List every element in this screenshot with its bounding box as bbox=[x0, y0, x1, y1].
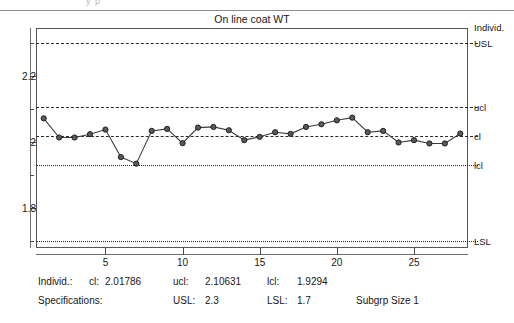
stats-subgroup-size: Subgrp Size 1 bbox=[356, 295, 419, 306]
x-tick-label-20: 20 bbox=[331, 257, 342, 268]
statistics-summary: Individ.: cl: 2.01786 ucl: 2.10631 lcl: … bbox=[38, 276, 478, 314]
x-tick-5 bbox=[105, 248, 106, 255]
y-tick-label-2.2: 2.2 bbox=[10, 70, 36, 81]
x-tick-label-10: 10 bbox=[177, 257, 188, 268]
header-rule bbox=[0, 10, 514, 11]
page-title: On line coat WT bbox=[36, 13, 468, 25]
reference-label-ucl: ucl bbox=[474, 101, 486, 112]
x-tick-10 bbox=[183, 248, 184, 255]
stats-lsl-label: LSL: bbox=[267, 295, 288, 306]
stats-lcl-label: lcl: bbox=[267, 276, 279, 287]
stats-cl-label: cl: bbox=[89, 276, 99, 287]
stats-row-specifications: Specifications: USL: 2.3 LSL: 1.7 Subgrp… bbox=[38, 295, 478, 314]
reference-label-lcl: lcl bbox=[474, 160, 483, 171]
stats-lcl-value: 1.9294 bbox=[297, 276, 328, 287]
reference-label-lsl: LSL bbox=[474, 236, 491, 247]
stats-lsl-value: 1.7 bbox=[297, 295, 311, 306]
y-minor-tick bbox=[30, 109, 34, 110]
x-tick-label-25: 25 bbox=[408, 257, 419, 268]
x-tick-label-5: 5 bbox=[103, 257, 109, 268]
y-minor-tick bbox=[30, 241, 34, 242]
x-tick-20 bbox=[337, 248, 338, 255]
right-axis-label: Individ. bbox=[474, 22, 504, 33]
x-axis-line bbox=[36, 254, 468, 255]
y-minor-tick bbox=[30, 175, 34, 176]
reference-label-usl: USL bbox=[474, 37, 492, 48]
y-minor-tick bbox=[30, 43, 34, 44]
stats-usl-label: USL: bbox=[173, 295, 195, 306]
plot-area bbox=[36, 28, 468, 248]
reference-line-lcl bbox=[36, 165, 478, 166]
stats-ucl-label: ucl: bbox=[173, 276, 189, 287]
stats-individ-label: Individ.: bbox=[38, 276, 72, 287]
x-tick-15 bbox=[260, 248, 261, 255]
reference-line-usl bbox=[36, 43, 478, 44]
x-tick-label-15: 15 bbox=[254, 257, 265, 268]
scan-artifact-strip: y p bbox=[0, 0, 514, 10]
reference-line-lsl bbox=[36, 241, 478, 242]
stats-row-individ: Individ.: cl: 2.01786 ucl: 2.10631 lcl: … bbox=[38, 276, 478, 295]
scan-artifact-text: y p bbox=[86, 0, 101, 6]
y-axis: 1.822.2 bbox=[0, 0, 36, 323]
stats-ucl-value: 2.10631 bbox=[205, 276, 241, 287]
reference-label-cl: cl bbox=[474, 131, 481, 142]
stats-cl-value: 2.01786 bbox=[105, 276, 141, 287]
y-tick-label-1.8: 1.8 bbox=[10, 203, 36, 214]
x-tick-25 bbox=[414, 248, 415, 255]
y-tick-label-2: 2 bbox=[10, 137, 36, 148]
stats-usl-value: 2.3 bbox=[205, 295, 219, 306]
reference-line-cl bbox=[36, 136, 478, 137]
stats-specs-label: Specifications: bbox=[38, 295, 102, 306]
reference-line-ucl bbox=[36, 107, 478, 108]
